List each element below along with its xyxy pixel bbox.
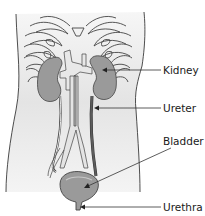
label-kidney: Kidney — [163, 65, 199, 76]
label-urethra: Urethra — [163, 202, 203, 213]
label-ureter: Ureter — [163, 103, 196, 114]
label-bladder: Bladder — [163, 136, 204, 147]
